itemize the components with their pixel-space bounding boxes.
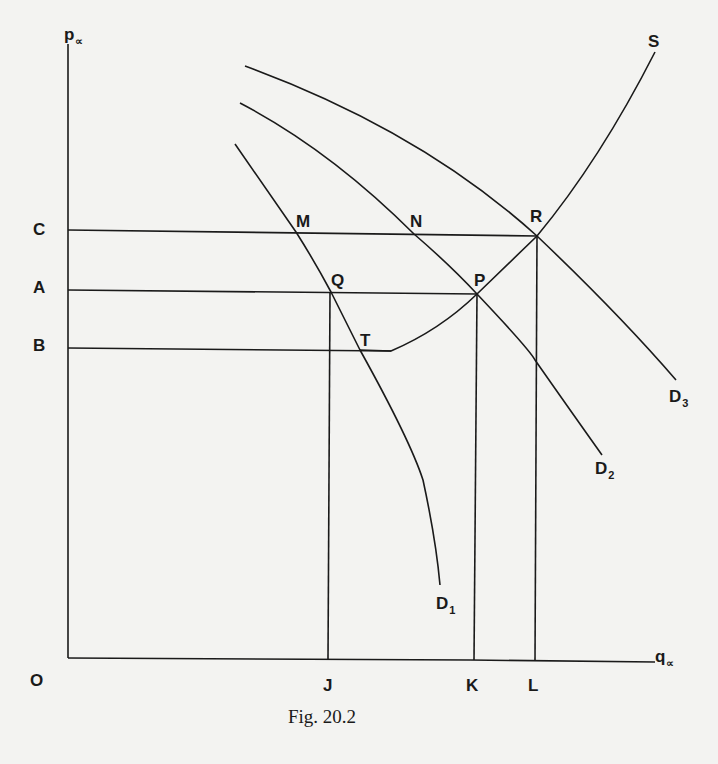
line-A-P	[68, 290, 477, 294]
curve-label-D3: D3	[669, 388, 688, 405]
origin-label: O	[30, 672, 43, 689]
point-label-P: P	[474, 272, 485, 289]
curve-label-D1-name: D	[436, 594, 448, 613]
demand-curve-D2	[240, 103, 602, 455]
figure-caption: Fig. 20.2	[288, 706, 356, 728]
curve-label-D3-sub: 3	[682, 397, 688, 409]
supply-curve-S	[360, 52, 655, 351]
point-label-M: M	[296, 213, 310, 230]
point-label-T: T	[360, 332, 370, 349]
line-P-K	[474, 294, 477, 660]
curve-label-D2: D2	[595, 460, 614, 477]
x-axis-ext	[470, 660, 655, 662]
quantity-label-L: L	[528, 677, 538, 694]
point-label-Q: Q	[331, 272, 344, 289]
point-label-N: N	[410, 213, 422, 230]
point-label-R: R	[530, 208, 542, 225]
quantity-label-J: J	[323, 677, 332, 694]
line-R-L	[535, 236, 537, 661]
x-axis	[68, 658, 470, 660]
price-label-C: C	[33, 221, 45, 238]
curve-label-D2-name: D	[595, 459, 607, 478]
price-label-A: A	[33, 279, 45, 296]
line-B-T	[68, 348, 391, 351]
y-axis-label: p∝	[64, 26, 83, 43]
price-label-B: B	[33, 337, 45, 354]
curve-label-D2-sub: 2	[608, 469, 614, 481]
y-axis-label-text: p	[64, 25, 74, 44]
quantity-label-K: K	[466, 677, 478, 694]
x-axis-label-text: q	[655, 647, 665, 666]
curve-label-D1: D1	[436, 595, 455, 612]
x-axis-label: q∝	[655, 648, 674, 665]
x-axis-label-subscript: ∝	[666, 657, 674, 669]
demand-curve-D1	[235, 144, 440, 585]
point-label-S: S	[648, 33, 659, 50]
y-axis-label-subscript: ∝	[75, 35, 83, 47]
line-Q-J	[328, 293, 330, 659]
curve-label-D3-name: D	[669, 387, 681, 406]
curve-label-D1-sub: 1	[449, 604, 455, 616]
diagram-canvas	[0, 0, 718, 764]
